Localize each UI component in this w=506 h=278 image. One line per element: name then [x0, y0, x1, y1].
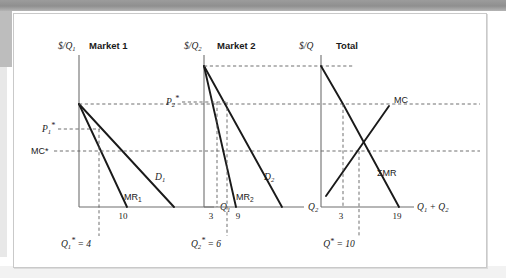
market1-x-axis-label: Q1 [220, 202, 230, 213]
panel-total: $/Q Total MC ΣMR 3 19 Q1 + Q2 Q* = 10 [299, 40, 449, 249]
market1-mr-curve [79, 104, 127, 207]
market1-demand-label: D1 [154, 172, 165, 183]
market2-price-label: P2* [165, 94, 179, 108]
total-sum-mr-label: ΣMR [377, 168, 397, 178]
panel-market1: $/Q1 Market 1 P1* MC* D1 MR1 10 Q1 Q1* =… [31, 40, 480, 250]
market2-demand-curve [204, 66, 282, 207]
market1-mr-label: MR1 [124, 192, 142, 203]
market2-y-axis-label: $/Q2 [184, 41, 202, 52]
total-title: Total [336, 40, 358, 51]
market2-mr-curve [204, 66, 236, 207]
price-discrimination-figure: $/Q1 Market 1 P1* MC* D1 MR1 10 Q1 Q1* =… [14, 14, 484, 265]
market2-xtick-9: 9 [236, 211, 241, 221]
market1-price-label: P1* [41, 121, 55, 135]
total-mc-label: MC [394, 95, 408, 105]
market2-optimal-quantity-caption: Q2* = 6 [191, 236, 221, 250]
market2-mr-label: MR2 [236, 192, 254, 203]
market1-optimal-quantity-caption: Q1* = 4 [61, 236, 91, 250]
total-xtick-19: 19 [393, 211, 403, 221]
figure-card: $/Q1 Market 1 P1* MC* D1 MR1 10 Q1 Q1* =… [13, 13, 487, 268]
market2-x-axis-label: Q2 [308, 202, 319, 213]
total-y-axis-label: $/Q [299, 41, 313, 51]
market2-xtick-3: 3 [209, 211, 214, 221]
total-x-axis-label: Q1 + Q2 [417, 202, 449, 213]
market1-y-axis-label: $/Q1 [58, 41, 76, 52]
left-gray-band-upper [0, 11, 12, 67]
market1-xtick-10: 10 [119, 211, 129, 221]
market2-demand-label: D2 [263, 172, 275, 183]
top-gray-band [0, 0, 506, 11]
total-optimal-quantity-caption: Q* = 10 [323, 237, 355, 249]
mc-star-label: MC* [31, 146, 49, 156]
market1-title: Market 1 [89, 40, 128, 51]
total-xtick-3: 3 [339, 211, 344, 221]
panel-market2: $/Q2 Market 2 P2* D2 MR2 3 9 Q2 Q2* = 6 [165, 40, 354, 250]
market2-title: Market 2 [217, 40, 256, 51]
left-gray-band-lower [0, 67, 7, 257]
